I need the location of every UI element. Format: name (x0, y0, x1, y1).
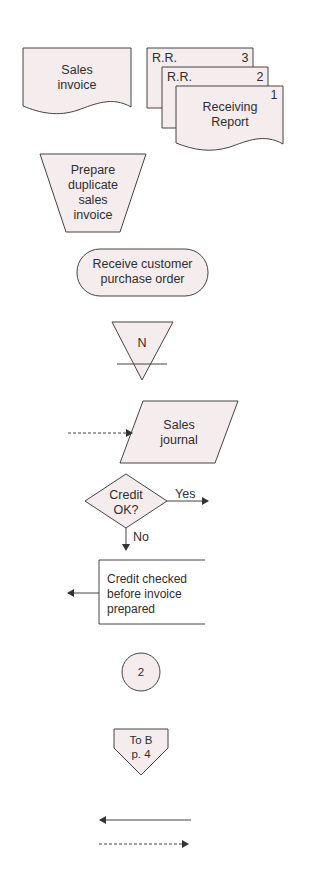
annotation-line3: prepared (107, 602, 187, 617)
decision-label: Credit OK? (101, 488, 151, 518)
rr-copy3-label: R.R. (152, 51, 177, 66)
rr-copy2-label: R.R. (167, 70, 192, 85)
off-page-connector-label: To B p. 4 (114, 733, 168, 761)
manual-operation-line3: sales (53, 193, 133, 208)
annotation-label: Credit checked before invoice prepared (107, 572, 187, 617)
manual-operation-line4: invoice (53, 208, 133, 223)
sales-journal-line1: Sales (140, 418, 218, 433)
receiving-report-label: Receiving Report (190, 100, 270, 130)
rr-copy3-number: 3 (240, 51, 250, 66)
terminal-line2: purchase order (77, 272, 208, 287)
sales-invoice-line2: invoice (23, 78, 131, 93)
sales-invoice-label: Sales invoice (23, 63, 131, 93)
manual-operation-line2: duplicate (53, 178, 133, 193)
off-page-line2: p. 4 (114, 747, 168, 761)
manual-operation-label: Prepare duplicate sales invoice (53, 163, 133, 223)
receiving-report-line2: Report (190, 115, 270, 130)
decision-line2: OK? (101, 503, 151, 518)
sales-journal-line2: journal (140, 433, 218, 448)
decision-yes-label: Yes (175, 487, 195, 502)
sales-invoice-line1: Sales (23, 63, 131, 78)
receiving-report-line1: Receiving (190, 100, 270, 115)
rr-copy1-number: 1 (269, 88, 279, 103)
rr-copy2-number: 2 (255, 70, 265, 85)
off-page-line1: To B (114, 733, 168, 747)
offline-file-label: N (132, 336, 152, 351)
annotation-line2: before invoice (107, 587, 187, 602)
annotation-line1: Credit checked (107, 572, 187, 587)
terminal-line1: Receive customer (77, 257, 208, 272)
decision-line1: Credit (101, 488, 151, 503)
decision-no-label: No (133, 530, 149, 545)
offline-file-shape (112, 322, 173, 380)
terminal-label: Receive customer purchase order (77, 257, 208, 287)
on-page-connector-label: 2 (131, 665, 151, 680)
sales-journal-label: Sales journal (140, 418, 218, 448)
manual-operation-line1: Prepare (53, 163, 133, 178)
